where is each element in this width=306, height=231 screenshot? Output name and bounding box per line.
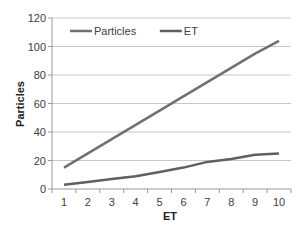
x-tick-label: 9 <box>252 196 258 208</box>
y-tick-label: 40 <box>34 126 46 138</box>
series-line-et <box>64 153 279 184</box>
x-tick-label: 10 <box>273 196 285 208</box>
y-axis-ticks: 020406080100120 <box>28 12 52 195</box>
x-axis-ticks: 12345678910 <box>52 189 291 208</box>
x-axis-title: ET <box>163 210 177 222</box>
x-tick-label: 7 <box>204 196 210 208</box>
x-tick-label: 1 <box>61 196 67 208</box>
y-tick-label: 0 <box>40 183 46 195</box>
y-tick-label: 60 <box>34 98 46 110</box>
gridlines <box>52 18 291 161</box>
y-tick-label: 120 <box>28 12 46 24</box>
x-tick-label: 5 <box>156 196 162 208</box>
y-tick-label: 20 <box>34 155 46 167</box>
x-tick-label: 4 <box>133 196 139 208</box>
line-chart: 020406080100120 12345678910 ParticlesET … <box>0 0 306 231</box>
series-lines <box>64 41 279 185</box>
legend: ParticlesET <box>70 25 198 37</box>
x-tick-label: 6 <box>180 196 186 208</box>
y-tick-label: 100 <box>28 41 46 53</box>
y-tick-label: 80 <box>34 69 46 81</box>
x-tick-label: 3 <box>109 196 115 208</box>
legend-label: Particles <box>94 25 137 37</box>
legend-label: ET <box>184 25 198 37</box>
x-tick-label: 8 <box>228 196 234 208</box>
x-tick-label: 2 <box>85 196 91 208</box>
series-line-particles <box>64 41 279 168</box>
y-axis-title: Particles <box>14 81 26 127</box>
